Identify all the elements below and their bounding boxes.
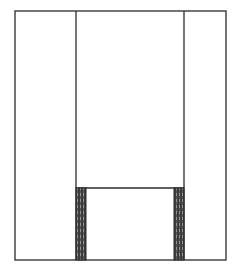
- outer-frame: [15, 11, 226, 260]
- diagram-canvas: [0, 0, 232, 270]
- right-shaded-bar: [174, 188, 184, 260]
- left-shaded-bar: [76, 188, 86, 260]
